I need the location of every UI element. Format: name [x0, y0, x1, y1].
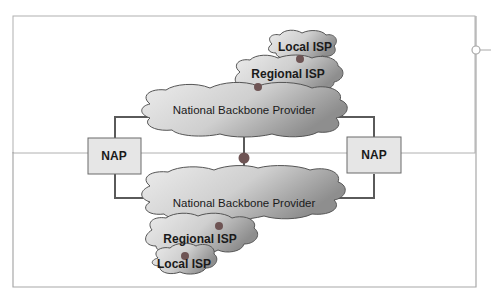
label-top-regional-isp: Regional ISP — [251, 67, 324, 81]
center-connection-dot — [239, 153, 250, 164]
cloud-bottom-backbone — [142, 166, 346, 221]
diagram-canvas — [0, 0, 491, 303]
label-top-local-isp: Local ISP — [278, 40, 332, 54]
frame-border — [13, 16, 491, 287]
label-bottom-regional-isp: Regional ISP — [163, 232, 236, 246]
label-bottom-local-isp: Local ISP — [157, 257, 211, 271]
dot-bottom-backbone-regional — [215, 222, 223, 230]
label-left-nap: NAP — [101, 149, 126, 163]
dot-top-local-regional — [296, 55, 304, 63]
dot-top-regional-backbone — [254, 83, 262, 91]
label-bottom-backbone: National Backbone Provider — [173, 197, 316, 209]
label-right-nap: NAP — [361, 148, 386, 162]
label-top-backbone: National Backbone Provider — [173, 104, 316, 116]
